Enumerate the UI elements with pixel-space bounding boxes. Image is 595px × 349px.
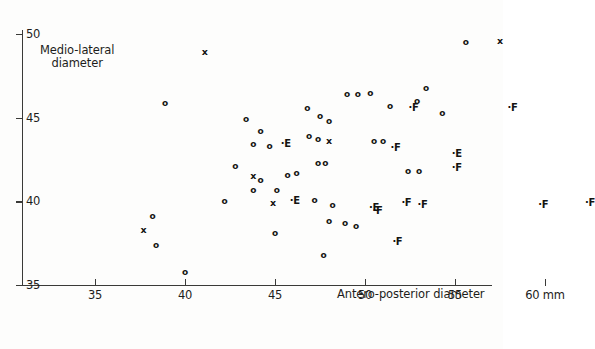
- y-tick: [16, 34, 23, 35]
- data-point-f: ·F: [538, 200, 548, 210]
- y-axis-title-text: Medio-lateraldiameter: [40, 43, 114, 70]
- data-point-o: o: [162, 98, 168, 108]
- data-point-o: o: [387, 101, 393, 111]
- data-point-x: x: [326, 136, 332, 146]
- data-point-o: o: [380, 136, 386, 146]
- data-point-o: o: [367, 88, 373, 98]
- data-point-o: o: [222, 196, 228, 206]
- x-tick-label: 55: [448, 288, 462, 302]
- y-tick: [16, 201, 23, 202]
- data-point-f: ·F: [392, 237, 402, 247]
- data-point-x: x: [250, 171, 256, 181]
- x-tick: [185, 279, 186, 286]
- data-point-o: o: [272, 228, 278, 238]
- data-point-o: o: [294, 168, 300, 178]
- x-tick-label: 60 mm: [525, 288, 565, 302]
- data-point-e: ·E: [281, 139, 291, 149]
- data-point-o: o: [306, 131, 312, 141]
- data-point-x: x: [497, 36, 503, 46]
- x-tick: [365, 279, 366, 286]
- data-point-f: ·F: [452, 163, 462, 173]
- data-point-o: o: [243, 114, 249, 124]
- y-tick: [16, 118, 23, 119]
- y-tick: [16, 285, 23, 286]
- data-point-o: o: [322, 158, 328, 168]
- x-tick: [275, 279, 276, 286]
- data-point-o: o: [182, 267, 188, 277]
- x-tick-label: 45: [268, 288, 282, 302]
- data-point-o: o: [326, 116, 332, 126]
- x-tick-label: 50: [358, 288, 372, 302]
- x-tick-label: 40: [178, 288, 192, 302]
- data-point-f: ·F: [401, 198, 411, 208]
- data-point-o: o: [285, 170, 291, 180]
- data-point-o: o: [267, 141, 273, 151]
- data-point-o: o: [153, 240, 159, 250]
- data-point-x: x: [202, 47, 208, 57]
- data-point-o: o: [232, 161, 238, 171]
- data-point-o: o: [321, 250, 327, 260]
- data-point-x: x: [141, 225, 147, 235]
- data-point-o: o: [355, 89, 361, 99]
- data-point-o: o: [304, 103, 310, 113]
- data-point-o: o: [312, 195, 318, 205]
- data-point-o: o: [353, 221, 359, 231]
- data-point-o: o: [416, 166, 422, 176]
- data-point-o: o: [150, 211, 156, 221]
- data-point-o: o: [405, 166, 411, 176]
- data-point-o: o: [439, 108, 445, 118]
- data-point-o: o: [463, 37, 469, 47]
- data-point-o: o: [423, 83, 429, 93]
- data-point-o: o: [317, 111, 323, 121]
- y-tick-label: 45: [26, 111, 40, 125]
- data-point-o: o: [274, 185, 280, 195]
- x-tick: [545, 279, 546, 286]
- data-point-o: o: [250, 139, 256, 149]
- data-point-o: o: [315, 134, 321, 144]
- data-point-o: o: [344, 89, 350, 99]
- data-point-f: ·F: [585, 198, 595, 208]
- data-point-e: ·E: [290, 196, 300, 206]
- y-axis-line: [22, 30, 23, 286]
- y-tick-label: 50: [26, 27, 40, 41]
- data-point-o: o: [258, 175, 264, 185]
- data-point-e: ·E: [452, 149, 462, 159]
- data-point-x: x: [270, 198, 276, 208]
- x-tick: [95, 279, 96, 286]
- data-point-o: o: [371, 136, 377, 146]
- data-point-o: o: [315, 158, 321, 168]
- data-point-f: ·F: [373, 206, 383, 216]
- data-point-o: o: [342, 218, 348, 228]
- x-tick-label: 35: [88, 288, 102, 302]
- y-axis-title: Medio-lateraldiameter: [40, 44, 114, 70]
- data-point-o: o: [330, 200, 336, 210]
- data-point-o: o: [326, 216, 332, 226]
- y-tick-label: 40: [26, 194, 40, 208]
- data-point-f: ·F: [418, 200, 428, 210]
- data-point-f: ·F: [508, 103, 518, 113]
- data-point-f: ·F: [409, 103, 419, 113]
- x-tick: [455, 279, 456, 286]
- y-tick-label: 35: [26, 278, 40, 292]
- data-point-o: o: [258, 126, 264, 136]
- data-point-o: o: [250, 185, 256, 195]
- data-point-f: ·F: [391, 143, 401, 153]
